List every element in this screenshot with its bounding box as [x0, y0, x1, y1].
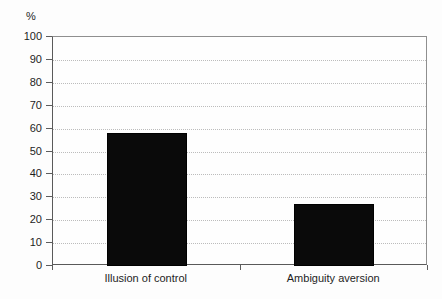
plot-area: [52, 36, 427, 265]
x-axis-category-label: Illusion of control: [52, 272, 240, 285]
y-axis-tick-label: 30: [2, 191, 42, 202]
y-axis-tick: [46, 128, 52, 129]
y-axis-tick-label: 10: [2, 237, 42, 248]
gridline: [53, 83, 426, 84]
y-axis-tick-label: 20: [2, 214, 42, 225]
gridline: [53, 129, 426, 130]
x-axis-tick: [240, 265, 241, 270]
y-axis-tick: [46, 59, 52, 60]
y-axis-tick: [46, 219, 52, 220]
x-axis-category-label: Ambiguity aversion: [240, 272, 428, 285]
bar-chart: % 1009080706050403020100 Illusion of con…: [0, 0, 442, 299]
y-axis-tick: [46, 36, 52, 37]
y-axis-tick: [46, 242, 52, 243]
y-axis-tick: [46, 151, 52, 152]
gridline: [53, 60, 426, 61]
y-axis-tick-label: 80: [2, 77, 42, 88]
y-axis-tick-label: 90: [2, 54, 42, 65]
x-axis-tick: [52, 265, 53, 270]
bar: [294, 204, 374, 266]
y-axis-tick-label: 60: [2, 123, 42, 134]
y-axis-tick: [46, 82, 52, 83]
y-axis-tick-label: 40: [2, 168, 42, 179]
y-axis-tick-label: 0: [2, 260, 42, 271]
y-axis-tick-label: 100: [2, 31, 42, 42]
y-axis-tick: [46, 173, 52, 174]
y-axis-unit-label: %: [26, 10, 36, 22]
y-axis-tick-label: 70: [2, 100, 42, 111]
gridline: [53, 106, 426, 107]
y-axis-tick-label: 50: [2, 146, 42, 157]
y-axis-tick: [46, 105, 52, 106]
x-axis-tick: [427, 265, 428, 270]
y-axis-tick: [46, 196, 52, 197]
bar: [107, 133, 187, 266]
